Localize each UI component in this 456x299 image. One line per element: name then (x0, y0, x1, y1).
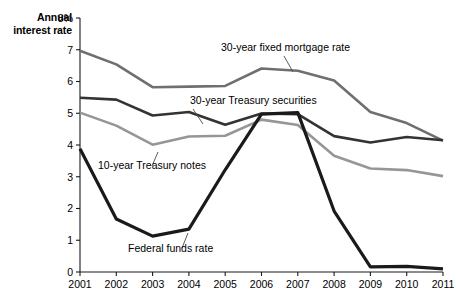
y-tick-label: 0 (67, 266, 73, 278)
x-tick-label: 2003 (141, 278, 165, 290)
x-axis: 2001200220032004200520062007200820092010… (68, 272, 454, 290)
y-tick-label: 1 (67, 234, 73, 246)
y-tick-label: 8% (58, 12, 73, 24)
x-tick-label: 2001 (68, 278, 92, 290)
x-tick-label: 2007 (286, 278, 310, 290)
annotation-label-10-year-treasury-notes: 10-year Treasury notes (98, 159, 206, 171)
annotation-label-30-year-fixed-mortgage-rate: 30-year fixed mortgage rate (221, 41, 350, 53)
x-tick-label: 2008 (322, 278, 346, 290)
y-tick-label: 3 (67, 171, 73, 183)
y-axis: 012345678% (58, 12, 80, 278)
x-tick-label: 2004 (177, 278, 201, 290)
annotation-label-30-year-treasury-securities: 30-year Treasury securities (190, 94, 317, 106)
interest-rate-chart: Annual interest rate 012345678% 20012002… (0, 0, 456, 299)
x-tick-label: 2006 (250, 278, 274, 290)
annotation-label-federal-funds-rate: Federal funds rate (128, 242, 213, 254)
y-tick-label: 4 (67, 139, 73, 151)
x-tick-label: 2010 (395, 278, 419, 290)
chart-canvas: 012345678% 20012002200320042005200620072… (0, 0, 456, 299)
y-tick-label: 7 (67, 44, 73, 56)
x-tick-label: 2005 (214, 278, 238, 290)
x-tick-label: 2002 (105, 278, 129, 290)
x-tick-label: 2011 (432, 278, 455, 290)
y-tick-label: 2 (67, 202, 73, 214)
x-tick-label: 2009 (359, 278, 383, 290)
y-tick-label: 5 (67, 107, 73, 119)
y-tick-label: 6 (67, 75, 73, 87)
